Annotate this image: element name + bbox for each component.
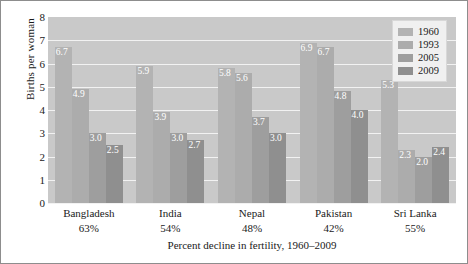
bar-value-label: 4.8 (335, 92, 347, 102)
category-percent-decline: 48% (211, 221, 293, 236)
bar[interactable]: 3.7 (252, 117, 269, 203)
legend-item[interactable]: 2009 (398, 64, 439, 77)
fertility-bar-chart-figure: Births per woman 876543210 6.74.93.02.55… (0, 0, 468, 264)
bar[interactable]: 3.9 (153, 112, 170, 203)
bar-value-label: 5.9 (137, 67, 149, 77)
x-axis-category: Pakistan42% (293, 206, 375, 236)
bar[interactable]: 5.8 (218, 68, 235, 203)
x-axis-category-labels: Bangladesh63%India54%Nepal48%Pakistan42%… (48, 206, 456, 236)
bar[interactable]: 5.6 (235, 73, 252, 203)
legend-label: 2005 (418, 51, 439, 64)
bar-value-label: 6.7 (318, 48, 330, 58)
bar[interactable]: 5.3 (381, 80, 398, 203)
category-percent-decline: 55% (374, 221, 456, 236)
bar-value-label: 3.9 (154, 113, 166, 123)
category-name: India (130, 206, 212, 221)
legend-label: 1960 (418, 25, 439, 38)
bar-group: 6.74.93.02.5 (48, 17, 130, 203)
bar[interactable]: 6.7 (317, 47, 334, 203)
legend-color-swatch (398, 28, 413, 36)
bar[interactable]: 6.9 (300, 43, 317, 203)
legend-color-swatch (398, 54, 413, 62)
legend-label: 2009 (418, 64, 439, 77)
bar-group: 6.96.74.84.0 (293, 17, 375, 203)
bar-value-label: 2.3 (399, 151, 411, 161)
bar[interactable]: 2.0 (415, 157, 432, 204)
category-percent-decline: 42% (293, 221, 375, 236)
y-axis-tick-label: 1 (27, 174, 45, 186)
category-name: Sri Lanka (374, 206, 456, 221)
bar[interactable]: 5.9 (136, 66, 153, 203)
category-percent-decline: 63% (48, 221, 130, 236)
bar-value-label: 3.0 (270, 134, 282, 144)
bar-value-label: 2.5 (107, 146, 119, 156)
bar[interactable]: 2.3 (398, 150, 415, 203)
legend-item[interactable]: 2005 (398, 51, 439, 64)
x-axis-category: Sri Lanka55% (374, 206, 456, 236)
bar[interactable]: 2.7 (187, 140, 204, 203)
category-name: Bangladesh (48, 206, 130, 221)
bar[interactable]: 2.5 (106, 145, 123, 203)
y-axis-ticks: 876543210 (27, 17, 45, 203)
legend-label: 1993 (418, 38, 439, 51)
bar-value-label: 4.0 (352, 111, 364, 121)
y-axis-tick-label: 4 (27, 104, 45, 116)
bar-value-label: 3.0 (90, 134, 102, 144)
gridline (48, 203, 456, 204)
x-axis-title: Percent decline in fertility, 1960–2009 (48, 239, 456, 251)
bar[interactable]: 6.7 (55, 47, 72, 203)
bar[interactable]: 3.0 (170, 133, 187, 203)
x-axis-category: Bangladesh63% (48, 206, 130, 236)
bar-value-label: 6.9 (301, 44, 313, 54)
bar-value-label: 2.0 (416, 158, 428, 168)
legend-color-swatch (398, 67, 413, 75)
bar-value-label: 3.7 (253, 118, 265, 128)
y-axis-tick-label: 8 (27, 11, 45, 23)
bar[interactable]: 4.8 (334, 91, 351, 203)
category-name: Nepal (211, 206, 293, 221)
legend-item[interactable]: 1960 (398, 25, 439, 38)
bar-value-label: 5.3 (382, 81, 394, 91)
bar[interactable]: 2.4 (432, 147, 449, 203)
bar[interactable]: 3.0 (89, 133, 106, 203)
bar-value-label: 5.6 (236, 74, 248, 84)
y-axis-tick-label: 6 (27, 58, 45, 70)
bar[interactable]: 4.9 (72, 89, 89, 203)
bar-value-label: 2.4 (433, 148, 445, 158)
legend: 1960199320052009 (392, 20, 447, 82)
x-axis-category: India54% (130, 206, 212, 236)
bar-value-label: 6.7 (56, 48, 68, 58)
legend-color-swatch (398, 41, 413, 49)
y-axis-tick-label: 5 (27, 81, 45, 93)
bar-value-label: 2.7 (188, 141, 200, 151)
y-axis-tick-label: 2 (27, 151, 45, 163)
bar[interactable]: 3.0 (269, 133, 286, 203)
x-axis-category: Nepal48% (211, 206, 293, 236)
bar-value-label: 3.0 (171, 134, 183, 144)
y-axis-tick-label: 3 (27, 127, 45, 139)
category-name: Pakistan (293, 206, 375, 221)
y-axis-tick-label: 0 (27, 197, 45, 209)
bar-group: 5.93.93.02.7 (130, 17, 212, 203)
legend-item[interactable]: 1993 (398, 38, 439, 51)
bar-value-label: 4.9 (73, 90, 85, 100)
bar-group: 5.85.63.73.0 (211, 17, 293, 203)
bar-value-label: 5.8 (219, 69, 231, 79)
bar[interactable]: 4.0 (351, 110, 368, 203)
category-percent-decline: 54% (130, 221, 212, 236)
y-axis-tick-label: 7 (27, 34, 45, 46)
